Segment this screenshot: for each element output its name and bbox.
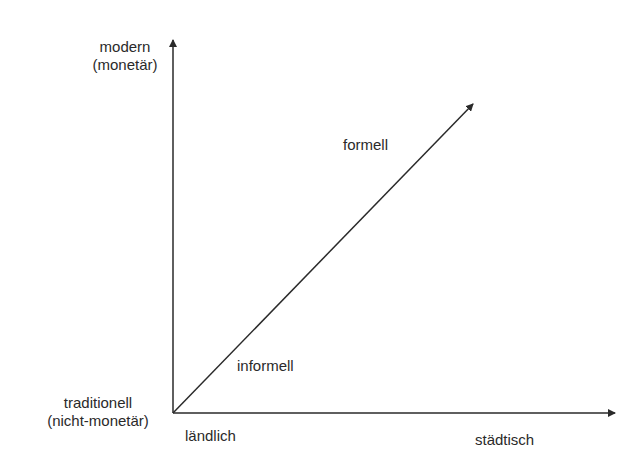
traditional-label: traditionell [30,394,166,412]
urban-label: städtisch [475,431,534,449]
formal-label: formell [343,136,388,154]
informal-label: informell [237,357,294,375]
y-axis-bottom-label: traditionell (nicht-monetär) [30,394,166,430]
monetary-label: (monetär) [70,56,180,74]
modern-label: modern [70,38,180,56]
non-monetary-label: (nicht-monetär) [30,412,166,430]
diagram-canvas: modern (monetär) traditionell (nicht-mon… [0,0,644,469]
diagonal-arrow [173,104,473,413]
y-axis-top-label: modern (monetär) [70,38,180,74]
rural-label: ländlich [185,427,236,445]
